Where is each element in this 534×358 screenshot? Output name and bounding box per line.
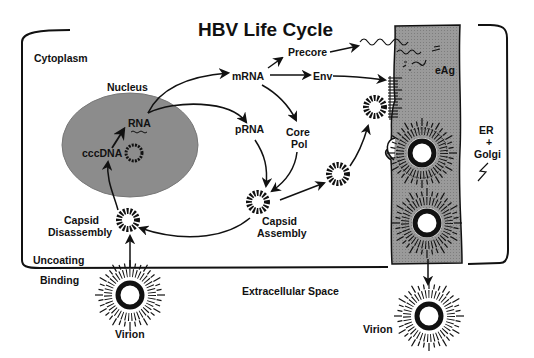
diagram-title: HBV Life Cycle [198,19,333,40]
virion-spike [452,330,459,334]
capsid-disassembly-label-1: Capsid [64,214,99,226]
virion-spike [395,228,400,229]
virion-spike [100,284,105,286]
arrow-assembly-to-transit [280,183,324,200]
arrow-precore-to-er [330,46,358,52]
capsid-disassembly-label-2: Disassembly [48,226,112,238]
virion-spike [408,337,411,341]
virion-spike [135,322,136,327]
virion-spike [153,278,160,282]
virion-in-label: Virion [115,328,145,340]
virion-spike [399,330,406,334]
virion-spike [418,286,420,291]
precore-label: Precore [288,46,327,58]
virion-spike [452,299,459,303]
virion-spike [147,316,150,320]
virion-spike [416,180,417,185]
virion-spike [119,320,121,325]
virion-spike [449,158,454,159]
virion-spike [412,286,416,293]
virion-spike [438,341,440,346]
nucleus-label: Nucleus [107,81,148,93]
virion-spike [151,274,155,277]
virion-spike [399,305,404,307]
virion-spike [446,337,449,341]
virion-spike [438,286,440,291]
rna-label: RNA [128,117,151,129]
virion-spike [408,291,411,295]
virion-spike [434,343,435,348]
virion-spike [119,265,121,270]
virion-spike [390,158,395,159]
virion-spike [397,321,402,322]
virion-spike [412,339,416,346]
extracellular-label: Extracellular Space [242,285,339,297]
virion-spike [456,321,461,322]
virion-spike [399,299,406,303]
virion-spike [100,309,107,313]
hbv-diagram: HBV Life Cycle Nucleus Cytoplasm RNA ccc… [0,0,534,358]
virion-spike [454,217,459,218]
binding-label: Binding [40,274,79,286]
capsid-icon-assembly [249,193,267,211]
virion-spike [155,304,160,306]
virion-spike [454,305,459,307]
virion-spike [98,289,103,290]
virion-spike [427,180,428,185]
capsid-assembly-label-2: Assembly [257,227,307,239]
pol-label: Pol [291,138,307,150]
eag-label: eAg [435,64,455,76]
virion-spike [98,300,103,301]
virion-spike [139,320,141,325]
virion-spike [454,325,459,327]
virion-spike [397,310,402,311]
virion-spike [443,339,447,346]
virion-spike [416,121,417,126]
virion-spike [443,286,447,293]
arrow-assembly-recycle [140,218,250,237]
virion-spike [157,289,162,290]
virion-spike [434,284,435,289]
virion-spike [404,295,408,298]
virion-spike [113,318,117,325]
virion-spike [427,121,428,126]
virion-spike [418,341,420,346]
uncoating-label: Uncoating [33,254,84,266]
virion-icon-incoming [95,260,165,330]
virion-spike [404,333,408,336]
golgi-label: Golgi [474,148,501,160]
virion-spike [109,270,112,274]
virion-spike [157,300,162,301]
virion-spike [144,318,148,325]
arrow-env-to-er [333,76,385,80]
virion-spike [432,191,433,196]
virion-icon-released [394,281,464,351]
capsid-icon-budding [366,98,384,116]
virion-spike [395,217,400,218]
cccdna-label: cccDNA [82,147,123,159]
virion-spike [100,278,107,282]
virion-spike [456,310,461,311]
arrow-mrna-to-core [262,85,296,120]
virion-spike [139,265,141,270]
virion-spike [421,250,422,255]
arrow-core-to-assembly [272,152,297,191]
virion-spike [105,274,109,277]
virion-spike [390,147,395,148]
virion-spike [109,316,112,320]
virion-spike [449,147,454,148]
capsid-assembly-label-1: Capsid [262,215,297,227]
virion-out-label: Virion [363,323,393,335]
virion-spike [147,270,150,274]
virion-spike [450,295,454,298]
cytoplasm-label: Cytoplasm [34,52,88,64]
virion-spike [421,191,422,196]
virion-spike [100,304,105,306]
virion-spike [423,284,424,289]
virion-spike [446,291,449,295]
prna-label: pRNA [235,123,265,135]
virion-spike [124,263,125,268]
virion-spike [155,284,160,286]
virion-spike [432,250,433,255]
env-label: Env [313,70,332,82]
